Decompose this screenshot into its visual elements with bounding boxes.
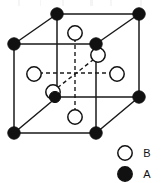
corner-front-bottom-right bbox=[90, 127, 102, 139]
face-centre-right bbox=[110, 67, 124, 81]
atom-interior-A bbox=[49, 91, 60, 102]
corner-back-top-right bbox=[133, 8, 145, 20]
legend-label-b: B bbox=[143, 147, 150, 159]
legend-label-a: A bbox=[143, 168, 151, 180]
corner-front-top-left bbox=[8, 38, 20, 50]
unit-cell-canvas: BA bbox=[0, 0, 163, 183]
corner-front-bottom-left bbox=[8, 127, 20, 139]
face-centre-bottom bbox=[68, 110, 82, 124]
legend: BA bbox=[118, 146, 152, 181]
corner-back-top-left bbox=[51, 8, 63, 20]
face-centre-top bbox=[68, 26, 82, 40]
unit-cell-figure: BA bbox=[0, 0, 163, 183]
legend-swatch-b bbox=[118, 146, 132, 160]
face-centre-left bbox=[27, 67, 41, 81]
bottom-left-edge bbox=[14, 97, 57, 133]
top-right-edge bbox=[96, 14, 139, 44]
legend-swatch-a bbox=[118, 167, 132, 181]
corner-front-top-right bbox=[90, 38, 102, 50]
corner-back-bottom-right bbox=[133, 91, 145, 103]
top-left-edge bbox=[14, 14, 57, 44]
bottom-right-edge bbox=[96, 97, 139, 133]
